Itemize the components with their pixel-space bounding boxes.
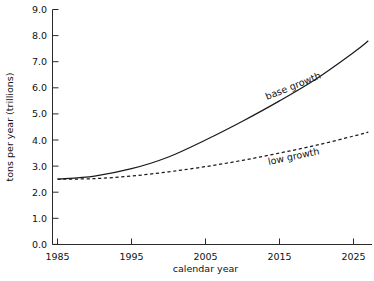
series-annotations: base growth low growth [264,70,323,167]
y-tick-label-0: 0.0 [32,239,47,250]
y-tick-labels: 9.0 8.0 7.0 6.0 5.0 4.0 3.0 2.0 1.0 0.0 [32,4,47,250]
x-tick-label-1995: 1995 [119,251,143,262]
y-tick-label-7: 7.0 [32,56,47,67]
y-tick-label-5: 5.0 [32,108,47,119]
x-axis-title: calendar year [173,263,239,274]
x-tick-label-1985: 1985 [45,251,69,262]
y-tick-label-9: 9.0 [32,4,47,15]
y-tick-label-8: 8.0 [32,30,47,41]
series-base-growth-line [58,41,369,179]
y-axis-ticks [53,10,59,245]
y-tick-label-4: 4.0 [32,135,47,146]
series-low-growth-line [58,132,369,179]
chart-figure: 9.0 8.0 7.0 6.0 5.0 4.0 3.0 2.0 1.0 0.0 … [0,0,374,281]
series-label-base-growth: base growth [264,70,323,102]
line-chart: 9.0 8.0 7.0 6.0 5.0 4.0 3.0 2.0 1.0 0.0 … [0,0,374,281]
y-tick-label-1: 1.0 [32,213,47,224]
x-tick-label-2005: 2005 [193,251,217,262]
x-tick-labels: 1985 1995 2005 2015 2025 [45,251,365,262]
y-tick-label-3: 3.0 [32,161,47,172]
y-axis-title: tons per year (trillions) [4,73,15,182]
series-label-low-growth: low growth [267,145,320,167]
axis-spines [53,10,373,245]
x-tick-label-2015: 2015 [267,251,291,262]
x-axis-ticks [58,239,354,245]
y-tick-label-6: 6.0 [32,82,47,93]
data-series [58,41,369,179]
x-tick-label-2025: 2025 [341,251,365,262]
y-tick-label-2: 2.0 [32,187,47,198]
